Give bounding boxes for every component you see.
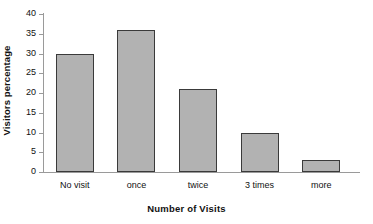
- bar-3-times[interactable]: [241, 133, 279, 173]
- x-axis-title: Number of Visits: [0, 203, 373, 214]
- y-axis-title: Visitors percentage: [0, 0, 14, 180]
- y-axis-tick-label: 10: [26, 128, 36, 137]
- bar-slot: [302, 14, 340, 172]
- bar-slot: [56, 14, 94, 172]
- y-axis-tick-label: 20: [26, 88, 36, 97]
- bar-no-visit[interactable]: [56, 54, 94, 173]
- bar-slot: [117, 14, 155, 172]
- plot-area: [44, 14, 352, 172]
- y-axis-tick-label: 35: [26, 29, 36, 38]
- y-axis-tick-label: 5: [31, 147, 36, 156]
- bar-once[interactable]: [117, 30, 155, 172]
- y-axis-tick-label: 25: [26, 68, 36, 77]
- x-axis-tick-label: more: [281, 180, 361, 190]
- y-axis-tick-label: 30: [26, 49, 36, 58]
- y-axis-tick-label: 0: [31, 167, 36, 176]
- bar-slot: [179, 14, 217, 172]
- x-axis-line: [40, 172, 360, 173]
- bar-twice[interactable]: [179, 89, 217, 172]
- y-axis-tick-label: 40: [26, 9, 36, 18]
- bar-slot: [241, 14, 279, 172]
- y-axis-tick-label: 15: [26, 108, 36, 117]
- bar-more[interactable]: [302, 160, 340, 172]
- y-axis-tick: [39, 172, 44, 173]
- y-axis-title-text: Visitors percentage: [2, 45, 13, 135]
- bar-chart: Visitors percentage 0510152025303540 No …: [0, 0, 373, 224]
